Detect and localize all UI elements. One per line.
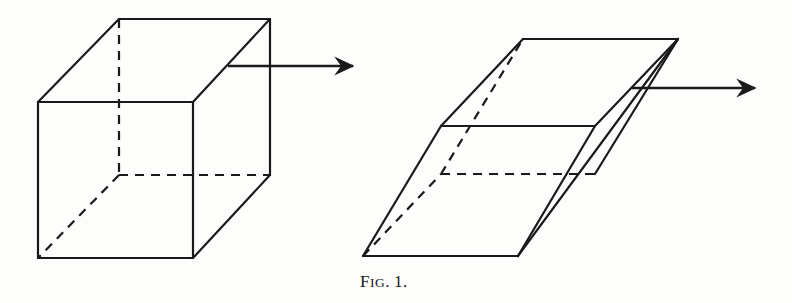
cube-edge-8	[193, 19, 270, 102]
sheared-hidden-edge-2	[363, 174, 441, 256]
caption-number: 1.	[394, 272, 408, 291]
figure-illustration	[0, 0, 792, 303]
sheared-edge-8	[595, 39, 678, 174]
right-parallelepiped-group	[363, 39, 678, 256]
sheared-edge-5	[595, 39, 678, 126]
sheared-edge-7	[518, 126, 595, 256]
sheared-hidden-edge-1	[441, 39, 523, 174]
sheared-edge-6	[518, 39, 678, 256]
caption-lead: F	[360, 272, 370, 291]
sheared-edge-3	[441, 39, 523, 126]
cube-hidden-edge-2	[38, 175, 119, 258]
caption-period: .	[385, 272, 390, 291]
figure-caption: FIG.1.	[360, 272, 408, 292]
cube-edge-4	[38, 19, 119, 102]
right-parallelepiped-hidden-edges	[363, 39, 595, 256]
left-cube-hidden-edges	[38, 19, 270, 258]
sheared-edge-1	[363, 126, 441, 256]
caption-smallcaps: IG	[370, 275, 385, 290]
figure-page: FIG.1.	[0, 0, 792, 303]
cube-edge-7	[193, 175, 270, 258]
